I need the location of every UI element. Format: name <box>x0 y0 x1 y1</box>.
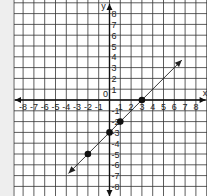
y-axis-label: y <box>101 1 106 11</box>
x-tick-label: -4 <box>62 102 70 112</box>
y-tick-label: -6 <box>112 160 120 170</box>
x-tick-label: 8 <box>193 102 198 112</box>
grid-lines <box>14 0 207 196</box>
x-tick-label: -6 <box>41 102 49 112</box>
y-tick-label: 8 <box>112 9 117 19</box>
y-tick-label: -7 <box>112 171 120 181</box>
y-tick-label: 7 <box>112 20 117 30</box>
x-tick-label: 3 <box>139 102 144 112</box>
line-y-equals-x-minus-3 <box>68 60 181 173</box>
y-tick-label: 6 <box>112 31 117 41</box>
y-tick-label: 5 <box>112 42 117 52</box>
axes <box>15 4 206 196</box>
x-tick-label: -3 <box>73 102 81 112</box>
graph-svg: -8-7-6-5-4-3-2-11234567887654321-1-2-3-4… <box>0 0 207 196</box>
x-axis-label: x <box>203 88 207 98</box>
y-tick-label: 3 <box>112 63 117 73</box>
x-tick-label: 4 <box>150 102 155 112</box>
data-point <box>85 151 92 158</box>
origin-label: 0 <box>103 89 108 99</box>
data-point <box>106 129 113 136</box>
y-tick-label: 2 <box>112 74 117 84</box>
x-tick-label: -7 <box>30 102 38 112</box>
data-point <box>139 97 146 104</box>
x-tick-label: -5 <box>51 102 59 112</box>
coordinate-plane: -8-7-6-5-4-3-2-11234567887654321-1-2-3-4… <box>0 0 207 196</box>
y-tick-label: -8 <box>112 182 120 192</box>
y-tick-label: -1 <box>112 106 120 116</box>
tick-labels: -8-7-6-5-4-3-2-11234567887654321-1-2-3-4… <box>19 1 207 192</box>
y-tick-label: 1 <box>112 85 117 95</box>
x-tick-label: 5 <box>161 102 166 112</box>
left-margin <box>0 0 13 196</box>
x-tick-label: -8 <box>19 102 27 112</box>
x-tick-label: -1 <box>95 102 103 112</box>
x-tick-label: 7 <box>183 102 188 112</box>
y-tick-label: -5 <box>112 150 120 160</box>
x-tick-label: -2 <box>84 102 92 112</box>
x-tick-label: 6 <box>172 102 177 112</box>
y-tick-label: 4 <box>112 52 117 62</box>
data-point <box>117 118 124 125</box>
y-tick-label: -4 <box>112 139 120 149</box>
plotted-line <box>68 60 181 173</box>
